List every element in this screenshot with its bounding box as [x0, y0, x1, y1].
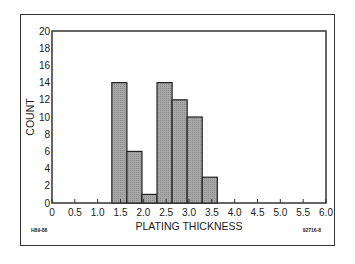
x-tick-label: 3.0 — [182, 207, 196, 218]
y-axis-ticks: 02468101214161820 — [39, 26, 51, 209]
y-axis-label: COUNT — [24, 98, 36, 136]
histogram-bar — [157, 83, 172, 203]
histogram-bar — [172, 100, 187, 203]
x-tick-label: 2.5 — [159, 207, 173, 218]
x-tick-label: 1.0 — [91, 207, 105, 218]
y-tick-label: 10 — [39, 112, 51, 123]
y-tick-label: 2 — [44, 180, 50, 191]
histogram-bar — [202, 177, 217, 203]
histogram-bar — [127, 151, 142, 203]
y-tick-label: 18 — [39, 43, 51, 54]
y-tick-label: 16 — [39, 60, 51, 71]
y-tick-label: 6 — [44, 146, 50, 157]
y-tick-label: 20 — [39, 26, 51, 37]
x-axis-label: PLATING THICKNESS — [136, 220, 243, 232]
y-tick-label: 14 — [39, 77, 51, 88]
x-tick-label: 5.0 — [273, 207, 287, 218]
histogram-bar — [187, 117, 202, 203]
histogram-chart: 00.51.01.52.02.53.03.54.04.55.05.56.0 02… — [0, 0, 355, 264]
x-tick-label: 4.5 — [251, 207, 265, 218]
x-tick-label: 1.5 — [114, 207, 128, 218]
bars-group — [112, 83, 217, 203]
x-tick-label: 5.5 — [296, 207, 310, 218]
y-tick-label: 12 — [39, 94, 51, 105]
y-tick-label: 0 — [44, 198, 50, 209]
x-tick-label: 0.5 — [68, 207, 82, 218]
histogram-bar — [142, 194, 157, 203]
y-tick-label: 4 — [44, 163, 50, 174]
x-tick-label: 6.0 — [319, 207, 333, 218]
histogram-bar — [112, 83, 127, 203]
x-tick-label: 0 — [49, 207, 55, 218]
x-tick-label: 4.0 — [228, 207, 242, 218]
figure-code-left: H89-88 — [31, 227, 48, 233]
y-tick-label: 8 — [44, 129, 50, 140]
x-tick-label: 2.0 — [136, 207, 150, 218]
x-tick-label: 3.5 — [205, 207, 219, 218]
figure-code-right: 92716-8 — [303, 227, 322, 233]
